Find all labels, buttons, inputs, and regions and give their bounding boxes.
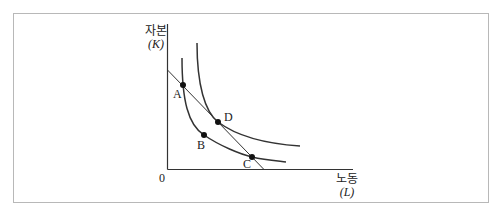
isoquant-diagram: [0, 0, 498, 214]
y-axis-title: 자본 (K): [145, 25, 167, 51]
outer-isoquant-curve: [197, 43, 300, 146]
point-a-label: A: [173, 88, 182, 101]
origin-label: 0: [159, 172, 165, 185]
point-d-marker: [215, 119, 221, 125]
y-axis-symbol: (K): [145, 38, 167, 51]
x-axis-symbol: (L): [334, 186, 360, 199]
point-b-label: B: [197, 139, 205, 152]
point-c-label: C: [243, 158, 251, 171]
x-axis-title: 노동 (L): [334, 173, 360, 199]
point-d-label: D: [224, 111, 233, 124]
